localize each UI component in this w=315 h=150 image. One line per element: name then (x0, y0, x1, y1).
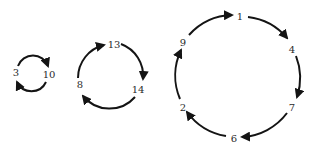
node-label: 6 (231, 133, 237, 144)
node-label: 7 (289, 102, 295, 113)
cycle-3-group: 13 14 8 (77, 39, 145, 109)
arrow-10-to-3 (17, 82, 46, 91)
arrow-2-to-9 (175, 50, 181, 99)
node-label: 3 (13, 67, 19, 78)
cycle-2-group: 3 10 (13, 56, 56, 92)
arrow-7-to-6 (242, 113, 287, 137)
node-label: 8 (77, 79, 83, 90)
node-label: 2 (180, 102, 186, 113)
arrow-14-to-8 (83, 96, 135, 109)
arrow-1-to-4 (248, 17, 287, 38)
node-label: 9 (180, 37, 186, 48)
arrow-4-to-7 (296, 56, 300, 97)
arrow-3-to-10 (18, 56, 48, 66)
node-label: 4 (289, 44, 295, 55)
cycle-diagram: 3 10 13 14 8 1 4 7 6 2 9 (0, 0, 315, 150)
node-label: 14 (132, 84, 145, 95)
node-label: 10 (43, 69, 56, 80)
node-label: 1 (237, 11, 243, 22)
arrow-13-to-14 (121, 44, 143, 79)
arrow-9-to-1 (189, 15, 232, 35)
arrow-6-to-2 (187, 112, 226, 136)
node-label: 13 (108, 39, 121, 50)
cycle-6-group: 1 4 7 6 2 9 (175, 11, 300, 144)
arrow-8-to-13 (78, 45, 104, 78)
